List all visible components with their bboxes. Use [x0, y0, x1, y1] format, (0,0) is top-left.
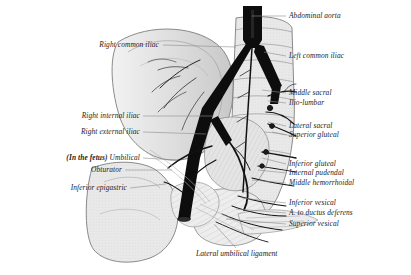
label-umbilical: (In the fetus) Umbilical — [66, 154, 140, 161]
label-inferior-vesical: Inferior vesical — [289, 199, 336, 206]
label-obturator: Obturator — [91, 166, 122, 173]
label-lateral-umbilical-ligament: Lateral umbilical ligament — [196, 250, 277, 258]
label-middle-sacral: Middle sacral — [289, 89, 332, 96]
label-middle-hemorrhoidal: Middle hemorrhoidal — [289, 179, 354, 186]
label-right-common-iliac: Right common iliac — [99, 41, 159, 48]
label-ilio-lumbar: Ilio-lumbar — [289, 99, 324, 106]
label-internal-pudendal: Internal pudendal — [289, 169, 344, 176]
umbilical-text: Umbilical — [110, 153, 140, 162]
anatomy-illustration — [0, 0, 411, 275]
label-abdominal-aorta: Abdominal aorta — [289, 12, 341, 19]
label-right-internal-iliac: Right internal iliac — [82, 112, 140, 119]
label-left-common-iliac: Left common iliac — [289, 52, 344, 59]
label-a-to-ductus-deferens: A. to ductus deferens — [289, 209, 353, 216]
label-inferior-epigastric: Inferior epigastric — [71, 184, 127, 191]
label-superior-gluteal: Superior gluteal — [289, 131, 339, 138]
label-lateral-sacral: Lateral sacral — [289, 122, 333, 129]
label-right-external-iliac: Right external iliac — [81, 128, 140, 135]
umbilical-qualifier: (In the fetus) — [66, 153, 107, 162]
label-superior-vesical: Superior vesical — [289, 220, 339, 227]
label-inferior-gluteal: Inferior gluteal — [289, 160, 336, 167]
anatomical-plate: Abdominal aorta Left common iliac Middle… — [0, 0, 411, 275]
